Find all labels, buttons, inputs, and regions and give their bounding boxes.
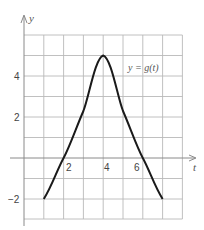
y-tick-minus-2: −2 [8,194,20,205]
y-tick-4: 4 [14,71,20,82]
x-tick-4: 4 [104,162,110,173]
x-axis-label: t [193,161,197,173]
x-tick-6: 6 [134,162,140,173]
x-tick-2: 2 [66,162,72,173]
chart: y t y = g(t) 2 4 6 4 2 −2 [0,0,204,230]
y-tick-2: 2 [14,112,20,123]
curve-label: y = g(t) [127,62,159,74]
y-axis-label: y [28,12,34,24]
